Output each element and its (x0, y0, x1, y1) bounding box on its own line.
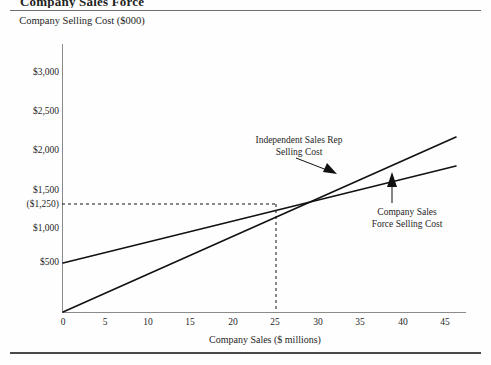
breakeven-guides (62, 204, 276, 312)
annotation-arrow-company-force (387, 172, 397, 203)
plot-area: Company Selling Cost ($000) Company Sale… (0, 0, 491, 365)
annotation-line-2: Selling Cost (228, 146, 370, 158)
annotation-line-1: Independent Sales Rep (228, 134, 370, 146)
annotation-independent-sales-rep: Independent Sales Rep Selling Cost (228, 134, 370, 158)
annotation-arrow-independent-rep (296, 158, 337, 174)
chart-figure: Company Sales Force Company Selling Cost… (0, 0, 491, 365)
annotation-company-sales-force: Company Sales Force Selling Cost (348, 206, 466, 230)
annotation-line-1: Company Sales (348, 206, 466, 218)
annotation-line-2: Force Selling Cost (348, 218, 466, 230)
chart-svg (0, 0, 491, 365)
